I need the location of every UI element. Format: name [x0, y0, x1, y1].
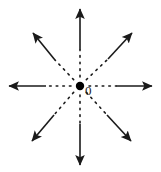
rays-canvas	[0, 0, 161, 172]
origin-point-dot	[76, 82, 84, 90]
ray-southwest-dotted	[54, 92, 74, 115]
radial-ray-diagram: 0	[0, 0, 161, 172]
ray-southwest-arrow	[32, 115, 54, 141]
origin-label: 0	[85, 84, 92, 97]
ray-northwest-arrow	[33, 33, 55, 60]
ray-southeast-arrow	[107, 115, 131, 141]
ray-northwest-dotted	[55, 60, 74, 80]
ray-northeast-dotted	[86, 59, 108, 80]
ray-northeast-arrow	[108, 33, 132, 59]
